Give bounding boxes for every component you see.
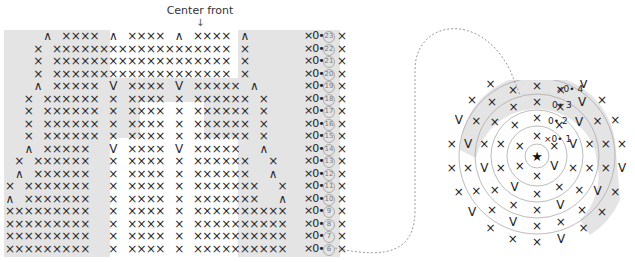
sc-stitch-icon: × bbox=[532, 219, 542, 233]
row-end-marker: ×0• bbox=[304, 30, 324, 42]
sc-stitch-icon: × bbox=[23, 93, 35, 105]
sc-stitch-icon: × bbox=[154, 118, 166, 130]
row-end-marker: ×0• bbox=[304, 193, 324, 205]
sc-stitch-icon: × bbox=[610, 113, 620, 127]
sc-stitch-icon: × bbox=[173, 155, 185, 167]
decrease-stitch-icon: ∧ bbox=[4, 193, 16, 205]
sc-stitch-icon: × bbox=[239, 105, 251, 117]
center-front-arrow-icon: ↓ bbox=[196, 18, 204, 28]
sc-stitch-icon: × bbox=[173, 168, 185, 180]
row-end-marker: ×0• bbox=[304, 155, 324, 167]
row-end-marker: ×0• bbox=[304, 80, 324, 92]
chart-row: ×××××××××××××××××××××0•16× bbox=[4, 118, 340, 130]
sc-stitch-icon: × bbox=[154, 168, 166, 180]
decrease-stitch-icon: ∧ bbox=[277, 193, 289, 205]
sc-stitch-icon: × bbox=[79, 143, 91, 155]
increase-stitch-icon: V bbox=[173, 80, 185, 92]
chart-row: ×××××××××××××××××××××0•18× bbox=[4, 93, 340, 105]
sc-stitch-icon: × bbox=[23, 118, 35, 130]
sc-stitch-icon: × bbox=[107, 230, 119, 242]
row-end-marker: ×0• bbox=[304, 43, 324, 55]
increase-stitch-icon: V bbox=[107, 80, 119, 92]
sc-stitch-icon: × bbox=[267, 155, 279, 167]
increase-stitch-icon: V bbox=[575, 115, 584, 129]
sc-stitch-icon: × bbox=[154, 205, 166, 217]
sc-stitch-icon: × bbox=[154, 218, 166, 230]
chart-row: ××××××××××××××××××××××××××0•9× bbox=[4, 205, 340, 217]
decrease-stitch-icon: ∧ bbox=[23, 143, 35, 155]
sc-stitch-icon: × bbox=[173, 118, 185, 130]
sc-stitch-icon: × bbox=[23, 130, 35, 142]
sc-stitch-icon: × bbox=[32, 55, 44, 67]
sc-stitch-icon: × bbox=[230, 143, 242, 155]
sc-stitch-icon: × bbox=[610, 185, 620, 199]
decrease-stitch-icon: ∧ bbox=[107, 30, 119, 42]
sc-stitch-icon: × bbox=[107, 93, 119, 105]
sc-stitch-icon: × bbox=[568, 161, 578, 175]
increase-stitch-icon: V bbox=[593, 184, 602, 198]
sc-stitch-icon: × bbox=[173, 218, 185, 230]
chart-row: ××××××××××××××××××××××0•22× bbox=[4, 43, 340, 55]
sc-stitch-icon: × bbox=[107, 155, 119, 167]
decrease-stitch-icon: ∧ bbox=[258, 143, 270, 155]
sc-stitch-icon: × bbox=[230, 80, 242, 92]
sc-stitch-icon: × bbox=[13, 155, 25, 167]
sc-stitch-icon: × bbox=[258, 130, 270, 142]
sc-stitch-icon: × bbox=[220, 30, 232, 42]
sc-stitch-icon: × bbox=[154, 230, 166, 242]
sc-stitch-icon: × bbox=[532, 111, 542, 125]
chart-row: ∧×××××V××××V×××××∧×0•19× bbox=[4, 80, 340, 92]
sc-stitch-icon: × bbox=[239, 130, 251, 142]
sc-stitch-icon: × bbox=[239, 155, 251, 167]
sc-stitch-icon: × bbox=[585, 161, 595, 175]
sc-stitch-icon: × bbox=[89, 30, 101, 42]
chart-row: ×××××××××××××××××××××0•15× bbox=[4, 130, 340, 142]
sc-stitch-icon: × bbox=[239, 55, 251, 67]
sc-stitch-icon: × bbox=[532, 129, 542, 143]
round-end-marker: 0• 3 bbox=[552, 100, 572, 110]
sc-stitch-icon: × bbox=[89, 118, 101, 130]
sc-stitch-icon: × bbox=[89, 80, 101, 92]
chart-row: ∧××××××××××××××××××∧×0•12× bbox=[4, 168, 340, 180]
sc-stitch-icon: × bbox=[277, 205, 289, 217]
sc-stitch-icon: × bbox=[79, 155, 91, 167]
sc-stitch-icon: × bbox=[597, 93, 607, 107]
sc-stitch-icon: × bbox=[79, 205, 91, 217]
sc-stitch-icon: × bbox=[107, 105, 119, 117]
increase-stitch-icon: V bbox=[579, 80, 588, 91]
sc-stitch-icon: × bbox=[532, 80, 542, 93]
sc-stitch-icon: × bbox=[248, 180, 260, 192]
sc-stitch-icon: × bbox=[107, 205, 119, 217]
row-end-marker: ×0• bbox=[304, 105, 324, 117]
sc-stitch-icon: × bbox=[79, 168, 91, 180]
sc-stitch-icon: × bbox=[239, 93, 251, 105]
sc-stitch-icon: × bbox=[79, 243, 91, 255]
sc-stitch-icon: × bbox=[173, 93, 185, 105]
row-end-marker: ×0• bbox=[304, 168, 324, 180]
decrease-stitch-icon: ∧ bbox=[267, 168, 279, 180]
row-end-marker: ×0• bbox=[304, 93, 324, 105]
sc-stitch-icon: × bbox=[154, 30, 166, 42]
sc-stitch-icon: × bbox=[154, 80, 166, 92]
sc-stitch-icon: × bbox=[154, 105, 166, 117]
sc-stitch-icon: × bbox=[258, 118, 270, 130]
sc-stitch-icon: × bbox=[79, 218, 91, 230]
sc-stitch-icon: × bbox=[220, 43, 232, 55]
sc-stitch-icon: × bbox=[173, 193, 185, 205]
sc-stitch-icon: × bbox=[239, 118, 251, 130]
sc-stitch-icon: × bbox=[554, 180, 564, 194]
increase-stitch-icon: V bbox=[557, 232, 566, 246]
sc-stitch-icon: × bbox=[173, 130, 185, 142]
chart-row: ∧×××××V××××V×××××∧×0•14× bbox=[4, 143, 340, 155]
sc-stitch-icon: × bbox=[556, 215, 566, 229]
sc-stitch-icon: × bbox=[220, 68, 232, 80]
sc-stitch-icon: × bbox=[532, 235, 542, 249]
sc-stitch-icon: × bbox=[89, 130, 101, 142]
chart-row: ∧××××××××××××××××××××∧×0•10× bbox=[4, 193, 340, 205]
sc-stitch-icon: × bbox=[239, 43, 251, 55]
sc-stitch-icon: × bbox=[277, 218, 289, 230]
sc-stitch-icon: × bbox=[239, 168, 251, 180]
round-end-marker: 0• 2 bbox=[548, 116, 568, 126]
row-end-marker: ×0• bbox=[304, 230, 324, 242]
round-end-marker: ×0• 1 bbox=[544, 134, 571, 144]
